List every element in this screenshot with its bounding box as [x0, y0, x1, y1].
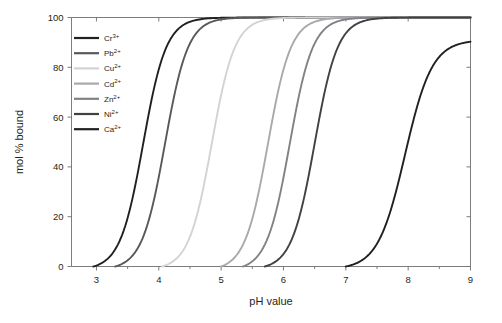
x-tick-label: 7: [343, 274, 348, 285]
x-tick-label: 3: [94, 274, 99, 285]
x-tick-label: 9: [468, 274, 473, 285]
y-tick-label: 0: [58, 261, 63, 272]
y-tick-label: 100: [48, 12, 64, 23]
y-tick-label: 60: [53, 112, 64, 123]
y-axis-title: mol % bound: [13, 110, 25, 174]
chart-background: [0, 0, 502, 323]
x-axis-title: pH value: [249, 295, 292, 307]
x-tick-label: 6: [281, 274, 286, 285]
y-tick-label: 40: [53, 161, 64, 172]
binding-curve-chart: 3456789 020406080100 Cr3+Pb2+Cu2+Cd2+Zn2…: [0, 0, 502, 323]
y-tick-label: 80: [53, 62, 64, 73]
x-tick-label: 4: [156, 274, 161, 285]
x-tick-label: 5: [218, 274, 223, 285]
chart-figure: 3456789 020406080100 Cr3+Pb2+Cu2+Cd2+Zn2…: [0, 0, 502, 323]
x-tick-label: 8: [406, 274, 411, 285]
y-tick-label: 20: [53, 211, 64, 222]
